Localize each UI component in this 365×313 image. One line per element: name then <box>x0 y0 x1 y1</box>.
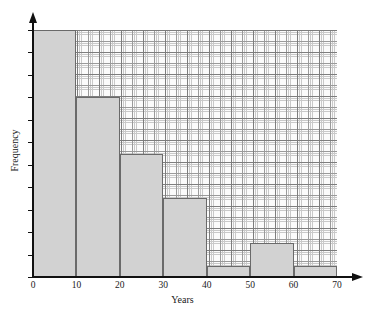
y-tick-mark <box>28 165 32 166</box>
x-tick-label: 40 <box>195 280 219 290</box>
histogram-bar <box>76 97 119 277</box>
y-tick-mark <box>28 210 32 211</box>
y-tick-mark <box>28 30 32 31</box>
y-axis-line <box>32 22 34 278</box>
plot-area <box>33 30 337 277</box>
histogram-chart: 0246810121416182022 010203040506070 Year… <box>0 0 365 313</box>
x-tick-label: 70 <box>325 280 349 290</box>
x-tick-label: 30 <box>151 280 175 290</box>
x-tick-label: 60 <box>282 280 306 290</box>
x-axis-arrow-icon <box>352 273 363 281</box>
y-tick-mark <box>28 142 32 143</box>
x-tick-label: 0 <box>21 280 45 290</box>
y-tick-mark <box>28 277 32 278</box>
x-tick-label: 20 <box>108 280 132 290</box>
y-tick-mark <box>28 232 32 233</box>
x-tick-label: 10 <box>64 280 88 290</box>
y-tick-mark <box>28 97 32 98</box>
histogram-bar <box>163 198 206 277</box>
histogram-bar <box>294 266 337 277</box>
histogram-bar <box>120 154 163 278</box>
y-tick-mark <box>28 255 32 256</box>
x-tick-label: 50 <box>238 280 262 290</box>
y-tick-mark <box>28 75 32 76</box>
y-tick-mark <box>28 187 32 188</box>
histogram-bar <box>33 30 76 277</box>
y-tick-mark <box>28 52 32 53</box>
histogram-bar <box>207 266 250 277</box>
histogram-bar <box>250 243 293 277</box>
y-tick-mark <box>28 120 32 121</box>
y-axis-arrow-icon <box>29 12 37 23</box>
x-axis-title: Years <box>0 294 365 305</box>
y-axis-title: Frequency <box>9 101 20 201</box>
x-axis-line <box>33 276 358 278</box>
